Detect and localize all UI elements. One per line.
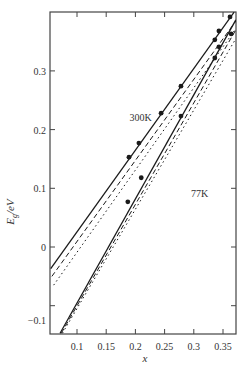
fit-line-solid (51, 12, 234, 269)
x-tick-label: 0.1 (71, 341, 84, 352)
data-point (139, 175, 144, 180)
data-point (159, 111, 164, 116)
fit-line-solid (60, 20, 236, 333)
data-point (127, 155, 132, 160)
data-point (179, 114, 184, 119)
x-tick-label: 0.3 (188, 341, 201, 352)
data-point (212, 56, 217, 61)
data-point (217, 44, 222, 49)
data-point (228, 14, 233, 19)
x-axis-ticks: 0.10.150.20.250.30.35 (71, 12, 232, 352)
x-tick-label: 0.2 (129, 341, 142, 352)
annotation-300k: 300K (130, 112, 153, 123)
y-axis-label-unit: /eV (4, 198, 16, 215)
series-markers (125, 14, 233, 204)
fit-line-dashdot (54, 29, 236, 286)
data-point (212, 37, 217, 42)
y-tick-label: −0.1 (28, 315, 46, 326)
y-tick-label: 0 (41, 242, 46, 253)
bandgap-chart: 0.10.150.20.250.30.35 −0.100.10.20.3 300… (0, 0, 246, 373)
fit-line-dashed (52, 21, 236, 276)
data-point (179, 84, 184, 89)
x-tick-label: 0.35 (214, 341, 232, 352)
data-point (137, 141, 142, 146)
fit-line-dashed (61, 30, 236, 333)
y-tick-label: 0.2 (34, 125, 47, 136)
y-axis-label: Eg/eV (4, 198, 19, 226)
fit-line-dashdot (62, 39, 235, 334)
series-lines (51, 12, 236, 333)
x-tick-label: 0.25 (156, 341, 174, 352)
x-axis-label: x (142, 352, 148, 364)
annotation-77k: 77K (191, 188, 209, 199)
x-tick-label: 0.15 (97, 341, 115, 352)
y-tick-label: 0.3 (34, 66, 47, 77)
data-point (125, 199, 130, 204)
data-point (229, 32, 234, 37)
data-point (217, 29, 222, 34)
y-tick-label: 0.1 (34, 183, 47, 194)
